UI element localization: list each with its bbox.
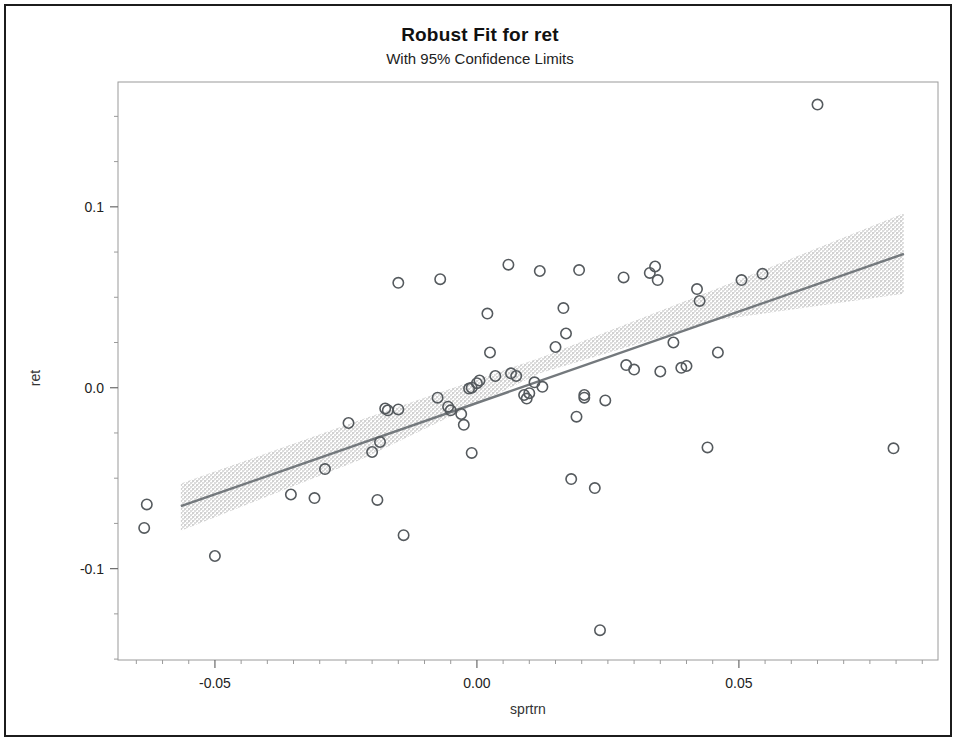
y-axis-ticks: [110, 116, 118, 659]
x-axis-label: sprtrn: [510, 701, 546, 717]
x-tick-label: -0.05: [199, 675, 231, 691]
x-axis-tick-labels: -0.050.000.05: [199, 675, 753, 691]
x-axis-ticks: [136, 660, 922, 668]
y-tick-label: -0.1: [80, 561, 104, 577]
y-tick-label: 0.1: [85, 199, 105, 215]
y-axis-label: ret: [27, 370, 43, 386]
robust-fit-chart: Robust Fit for ret With 95% Confidence L…: [0, 0, 960, 745]
y-tick-label: 0.0: [85, 380, 105, 396]
x-tick-label: 0.00: [463, 675, 490, 691]
y-axis-tick-labels: 0.10.0-0.1: [80, 199, 104, 577]
screenshot-canvas: Robust Fit for ret With 95% Confidence L…: [0, 0, 960, 745]
x-tick-label: 0.05: [725, 675, 752, 691]
plot-canvas: -0.050.000.05 0.10.0-0.1 sprtrn ret: [0, 0, 960, 745]
